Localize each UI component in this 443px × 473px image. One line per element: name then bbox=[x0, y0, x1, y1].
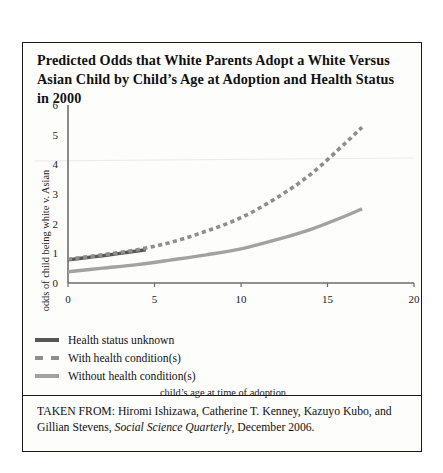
legend-swatch-solid-gray-icon bbox=[35, 374, 59, 378]
legend-item-label: Without health condition(s) bbox=[68, 370, 196, 383]
x-tick-label: 5 bbox=[152, 293, 158, 305]
y-axis-label: odds of child being white v. Asian bbox=[40, 156, 51, 326]
x-tick-label: 15 bbox=[322, 293, 334, 305]
chart-axes bbox=[68, 105, 414, 283]
source-journal-title: Social Science Quarterly bbox=[115, 421, 232, 434]
chart-plot-area: 0123456 05101520 child’s age at time of … bbox=[23, 95, 423, 325]
y-tick-label: 0 bbox=[53, 277, 59, 289]
y-tick-label: 6 bbox=[53, 99, 59, 111]
scan-artifact-line bbox=[35, 158, 413, 161]
legend-item: Health status unknown bbox=[35, 331, 335, 349]
y-tick-label: 1 bbox=[53, 247, 59, 259]
y-tick-label: 4 bbox=[53, 158, 59, 170]
source-suffix: , December 2006. bbox=[231, 421, 314, 434]
line-chart: 0123456 05101520 bbox=[23, 95, 423, 325]
series-line bbox=[68, 209, 362, 272]
chart-legend: Health status unknown With health condit… bbox=[35, 331, 335, 385]
x-tick-label: 10 bbox=[236, 293, 248, 305]
x-tick-label: 0 bbox=[65, 293, 71, 305]
y-tick-group: 0123456 bbox=[53, 99, 59, 289]
source-attribution: TAKEN FROM: Hiromi Ishizawa, Catherine T… bbox=[37, 404, 409, 436]
y-tick-label: 3 bbox=[53, 188, 59, 200]
source-divider bbox=[23, 395, 421, 396]
figure-box: Predicted Odds that White Parents Adopt … bbox=[22, 42, 422, 452]
legend-swatch-solid-dark-icon bbox=[35, 338, 59, 342]
series-group bbox=[68, 127, 362, 271]
series-line bbox=[68, 127, 362, 259]
legend-item-label: Health status unknown bbox=[68, 334, 174, 347]
legend-item-label: With health condition(s) bbox=[68, 352, 181, 365]
x-tick-group: 05101520 bbox=[65, 283, 420, 305]
y-tick-label: 5 bbox=[53, 129, 59, 141]
legend-item: Without health condition(s) bbox=[35, 367, 335, 385]
y-tick-label: 2 bbox=[53, 218, 59, 230]
x-tick-label: 20 bbox=[409, 293, 421, 305]
x-axis-label: child’s age at time of adoption bbox=[23, 387, 423, 398]
legend-item: With health condition(s) bbox=[35, 349, 335, 367]
legend-swatch-dashed-icon bbox=[35, 356, 59, 360]
